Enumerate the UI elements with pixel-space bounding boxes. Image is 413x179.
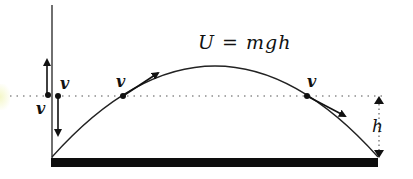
label-v-rising: v (116, 74, 125, 90)
trajectory-curve (52, 66, 378, 157)
equation-label: U = mgh (198, 33, 291, 52)
velocity-arrow-falling (307, 96, 345, 116)
label-height: h (372, 118, 383, 135)
label-v-falling: v (307, 74, 316, 90)
label-v-upward: v (36, 101, 45, 117)
projectile-diagram: U = mgh v v v v h (0, 0, 413, 179)
point-up (45, 92, 51, 98)
label-v-downward: v (60, 76, 69, 92)
height-arrow-top-icon (374, 96, 384, 104)
point-down (55, 93, 61, 99)
velocity-arrow-rising (123, 73, 158, 96)
ground-bar (51, 158, 378, 167)
